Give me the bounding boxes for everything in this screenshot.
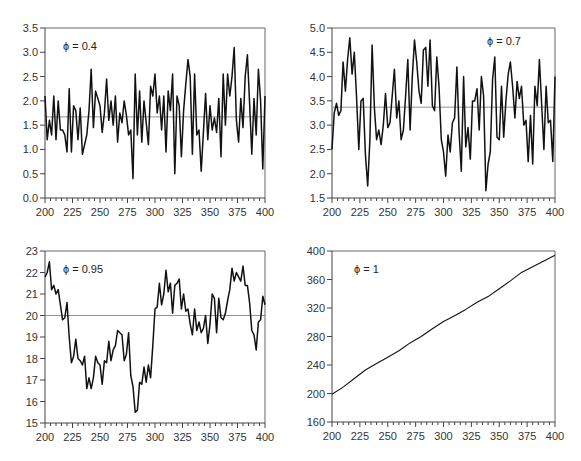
x-tick-label: 250 [379, 430, 397, 442]
x-tick-label: 250 [379, 206, 397, 218]
y-tick-label: 1.0 [23, 143, 38, 155]
y-tick-label: 4.5 [310, 46, 325, 58]
y-tick-label: 2.5 [310, 143, 325, 155]
y-tick-label: 21 [26, 288, 38, 300]
panel-phi-0.7: 1.52.02.53.03.54.04.55.02002252502753003… [310, 22, 564, 218]
y-tick-label: 4.0 [310, 71, 325, 83]
y-tick-label: 19 [26, 331, 38, 343]
x-tick-label: 375 [228, 206, 246, 218]
x-tick-label: 275 [118, 206, 136, 218]
y-tick-label: 5.0 [310, 22, 325, 34]
y-tick-label: 2.0 [23, 95, 38, 107]
y-tick-label: 320 [307, 302, 325, 314]
y-tick-label: 280 [307, 331, 325, 343]
x-tick-label: 225 [63, 206, 81, 218]
x-tick-label: 300 [434, 430, 452, 442]
series-line [45, 47, 265, 178]
y-tick-label: 16 [26, 396, 38, 408]
x-tick-label: 275 [406, 430, 424, 442]
y-tick-label: 2.5 [23, 71, 38, 83]
series-line [45, 262, 265, 413]
x-tick-label: 400 [256, 206, 274, 218]
y-tick-label: 160 [307, 416, 325, 428]
panel-phi-1: 1602002402803203604002002252502753003253… [307, 245, 565, 442]
x-tick-label: 200 [323, 430, 341, 442]
phi-annotation: ϕ = 0.7 [487, 35, 521, 47]
x-tick-label: 225 [351, 430, 369, 442]
x-tick-label: 400 [546, 206, 564, 218]
y-tick-label: 3.5 [310, 95, 325, 107]
y-tick-label: 20 [26, 310, 38, 322]
x-tick-label: 200 [36, 431, 54, 443]
y-tick-label: 2.0 [310, 168, 325, 180]
y-tick-label: 200 [307, 388, 325, 400]
phi-annotation: ϕ = 1 [354, 263, 379, 275]
x-tick-label: 225 [63, 431, 81, 443]
y-tick-label: 18 [26, 353, 38, 365]
y-tick-label: 1.5 [23, 119, 38, 131]
y-tick-label: 22 [26, 267, 38, 279]
series-line [332, 38, 555, 191]
x-tick-label: 250 [91, 431, 109, 443]
x-tick-label: 325 [462, 430, 480, 442]
x-tick-label: 400 [546, 430, 564, 442]
y-tick-label: 23 [26, 245, 38, 257]
x-tick-label: 200 [36, 206, 54, 218]
y-tick-label: 3.0 [310, 119, 325, 131]
x-tick-label: 400 [256, 431, 274, 443]
x-tick-label: 300 [146, 206, 164, 218]
panel-phi-0.4: 0.00.51.01.52.02.53.03.52002252502753003… [23, 22, 274, 218]
y-tick-label: 240 [307, 359, 325, 371]
x-tick-label: 275 [118, 431, 136, 443]
y-tick-label: 3.0 [23, 46, 38, 58]
phi-annotation: ϕ = 0.95 [63, 263, 103, 275]
x-tick-label: 300 [146, 431, 164, 443]
series-line [332, 255, 555, 394]
x-tick-label: 350 [201, 206, 219, 218]
panel-phi-0.95: 1516171819202122232002252502753003253503… [26, 245, 274, 443]
x-tick-label: 325 [173, 206, 191, 218]
y-tick-label: 400 [307, 245, 325, 257]
x-tick-label: 375 [228, 431, 246, 443]
x-tick-label: 350 [490, 430, 508, 442]
y-tick-label: 3.5 [23, 22, 38, 34]
y-tick-label: 15 [26, 417, 38, 429]
x-tick-label: 325 [462, 206, 480, 218]
x-tick-label: 350 [490, 206, 508, 218]
y-tick-label: 0.0 [23, 192, 38, 204]
x-tick-label: 250 [91, 206, 109, 218]
y-tick-label: 0.5 [23, 168, 38, 180]
phi-annotation: ϕ = 0.4 [63, 40, 97, 52]
x-tick-label: 225 [351, 206, 369, 218]
x-tick-label: 375 [518, 430, 536, 442]
y-tick-label: 1.5 [310, 192, 325, 204]
x-tick-label: 350 [201, 431, 219, 443]
x-tick-label: 375 [518, 206, 536, 218]
y-tick-label: 17 [26, 374, 38, 386]
x-tick-label: 200 [323, 206, 341, 218]
y-tick-label: 360 [307, 274, 325, 286]
chart-grid: 0.00.51.01.52.02.53.03.52002252502753003… [0, 0, 581, 461]
x-tick-label: 275 [406, 206, 424, 218]
x-tick-label: 300 [434, 206, 452, 218]
x-tick-label: 325 [173, 431, 191, 443]
